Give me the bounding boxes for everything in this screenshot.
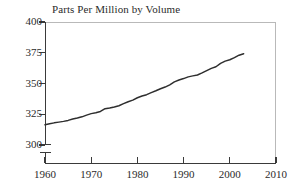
plot-frame-top-border: [45, 22, 276, 23]
x-tick-2000: [229, 157, 230, 163]
x-tick-2010: [275, 157, 276, 163]
x-tick-1990: [183, 157, 184, 163]
y-axis-break-mark-lower: [40, 152, 51, 153]
y-tick-label-300: 300: [26, 138, 43, 150]
x-tick-1970: [91, 157, 92, 163]
plot-frame: [45, 22, 276, 164]
x-tick-label-2010: 2010: [265, 168, 287, 180]
x-tick-label-1960: 1960: [34, 168, 56, 180]
y-tick-label-375: 375: [26, 46, 43, 58]
x-tick-label-1980: 1980: [126, 168, 148, 180]
y-axis-upper-segment: [45, 22, 46, 145]
x-tick-label-2000: 2000: [219, 168, 241, 180]
y-tick-label-400: 400: [26, 15, 43, 27]
x-tick-label-1990: 1990: [173, 168, 195, 180]
y-tick-label-325: 325: [26, 107, 43, 119]
y-tick-label-350: 350: [26, 77, 43, 89]
plot-frame-right-border: [275, 22, 276, 164]
chart-title: Parts Per Million by Volume: [52, 3, 180, 15]
co2-line-chart-figure: Parts Per Million by Volume 300325350375…: [0, 0, 295, 193]
x-tick-1960: [44, 157, 45, 163]
x-tick-label-1970: 1970: [80, 168, 102, 180]
x-tick-1980: [137, 157, 138, 163]
x-axis-line: [45, 163, 276, 164]
